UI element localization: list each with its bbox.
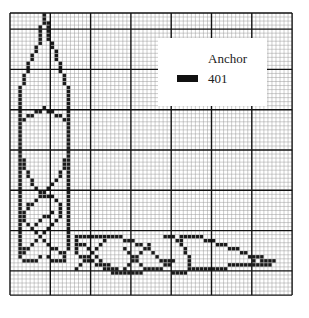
legend-box: Anchor 401 [158, 38, 267, 106]
legend-title: Anchor [208, 51, 247, 67]
color-swatch [177, 75, 198, 82]
legend-thread-code: 401 [208, 71, 228, 87]
